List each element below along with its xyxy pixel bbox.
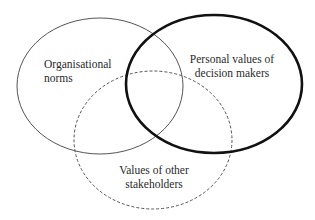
organisational-norms-label-line-2: norms xyxy=(44,71,112,85)
organisational-norms-ellipse xyxy=(17,18,183,154)
personal-values-ellipse xyxy=(126,15,302,153)
organisational-norms-label-line-1: Organisational xyxy=(44,57,112,71)
stakeholder-values-label-line-1: Values of other xyxy=(108,163,200,177)
personal-values-label-line-1: Personal values of xyxy=(186,52,278,66)
stakeholder-values-label: Values of other stakeholders xyxy=(108,163,200,191)
venn-diagram: Organisational norms Personal values of … xyxy=(0,0,315,220)
personal-values-label: Personal values of decision makers xyxy=(186,52,278,80)
organisational-norms-label: Organisational norms xyxy=(44,57,112,85)
stakeholder-values-label-line-2: stakeholders xyxy=(108,177,200,191)
personal-values-label-line-2: decision makers xyxy=(186,66,278,80)
